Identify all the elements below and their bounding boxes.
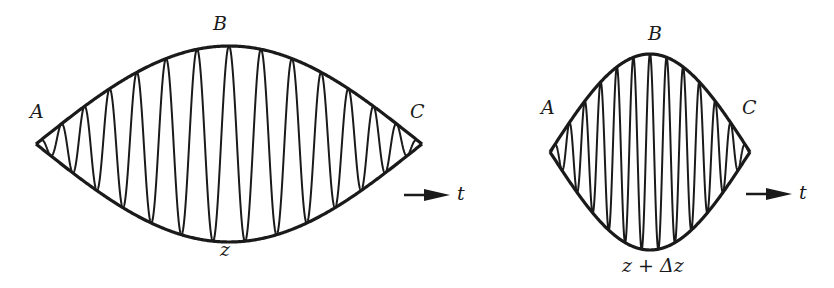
left-label-t: t: [457, 182, 465, 204]
right-label-c: C: [742, 96, 757, 118]
left-label-c: C: [410, 100, 425, 122]
left-label-b: B: [213, 12, 227, 34]
right-label-z-dz: z + Δz: [622, 254, 684, 276]
left-label-z: z: [220, 238, 230, 260]
right-label-a: A: [541, 96, 555, 118]
right-pulse-envelope: [550, 54, 750, 250]
time-arrow-right: [746, 188, 792, 200]
left-pulse-envelope: [36, 46, 422, 242]
right-label-t: t: [799, 181, 807, 203]
left-label-a: A: [30, 100, 44, 122]
time-arrow-left: [404, 189, 450, 201]
pulse-diagram: [0, 0, 834, 288]
right-label-b: B: [648, 22, 662, 44]
